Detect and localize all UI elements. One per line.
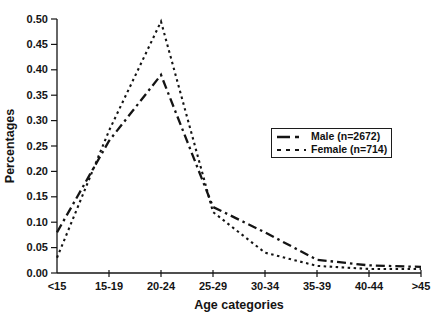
y-tick-label: 0.40 — [27, 63, 48, 75]
x-tick-label: 25-29 — [199, 280, 227, 292]
male-series-line — [57, 75, 421, 267]
male-line-sample — [277, 132, 306, 142]
y-tick-label: 0.00 — [27, 267, 48, 279]
x-tick-label: 35-39 — [303, 280, 331, 292]
y-tick-label: 0.45 — [27, 38, 48, 50]
y-tick-label: 0.30 — [27, 114, 48, 126]
y-tick-label: 0.10 — [27, 216, 48, 228]
y-tick-label: 0.35 — [27, 89, 48, 101]
x-tick-label: >45 — [412, 280, 431, 292]
legend-label-male: Male (n=2672) — [311, 130, 380, 143]
line-chart: 0.000.050.100.150.200.250.300.350.400.45… — [0, 0, 439, 327]
y-tick-label: 0.25 — [27, 140, 48, 152]
legend-item-male: Male (n=2672) — [277, 130, 391, 143]
y-tick-label: 0.20 — [27, 165, 48, 177]
y-tick-label: 0.50 — [27, 13, 48, 25]
x-tick-label: 20-24 — [147, 280, 176, 292]
x-tick-label: 30-34 — [251, 280, 280, 292]
legend-label-female: Female (n=714) — [311, 143, 387, 156]
x-tick-label: 15-19 — [95, 280, 123, 292]
x-axis-title: Age categories — [194, 298, 284, 312]
y-axis-title: Percentages — [3, 109, 17, 183]
age-distribution-figure: 0.000.050.100.150.200.250.300.350.400.45… — [0, 0, 439, 327]
legend-item-female: Female (n=714) — [277, 143, 391, 156]
y-tick-label: 0.15 — [27, 190, 48, 202]
female-line-sample — [277, 145, 306, 155]
legend: Male (n=2672) Female (n=714) — [271, 128, 392, 158]
x-tick-label: <15 — [48, 280, 67, 292]
y-tick-label: 0.05 — [27, 241, 48, 253]
x-tick-label: 40-44 — [355, 280, 384, 292]
